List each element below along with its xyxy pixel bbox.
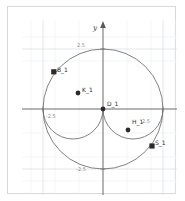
tick-label-y-positive: 2.5 [77, 42, 85, 48]
tick-label-x-negative: -2.5 [46, 113, 56, 119]
point-marker-dot[interactable] [76, 91, 81, 96]
point-label: B_1 [57, 66, 68, 74]
point-B_1[interactable]: B_1 [51, 66, 68, 74]
figure-root: 2.5 -2.5 -2.5 2.5 y B_1 K_1 D_1 [0, 0, 185, 201]
point-marker-square[interactable] [149, 143, 154, 148]
point-marker-dot[interactable] [126, 128, 131, 133]
y-axis-arrow [100, 21, 106, 28]
point-K_1[interactable]: K_1 [76, 86, 93, 95]
tick-label-y-negative: -2.5 [76, 166, 86, 172]
applet-frame: 2.5 -2.5 -2.5 2.5 y B_1 K_1 D_1 [7, 6, 176, 194]
point-label: D_1 [107, 100, 119, 108]
y-axis-label: y [92, 24, 98, 32]
coordinate-plane[interactable]: 2.5 -2.5 -2.5 2.5 y B_1 K_1 D_1 [22, 20, 177, 195]
graphics-canvas[interactable]: 2.5 -2.5 -2.5 2.5 y B_1 K_1 D_1 [22, 20, 177, 195]
point-label: S_1 [155, 139, 166, 147]
point-marker-square[interactable] [51, 69, 56, 74]
point-marker-dot[interactable] [101, 107, 106, 112]
point-label: H_1 [132, 118, 144, 126]
point-H_1[interactable]: H_1 [126, 118, 144, 132]
point-label: K_1 [82, 86, 93, 94]
